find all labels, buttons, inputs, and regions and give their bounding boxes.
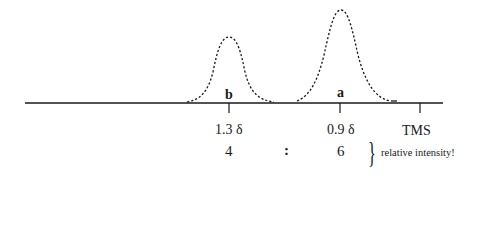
ratio-separator: : (284, 143, 289, 158)
integration-a: 6 (337, 144, 345, 159)
shift-label-a: 0.9 δ (327, 123, 355, 137)
relative-intensity-note: relative intensity! (381, 148, 455, 159)
peak-label-b: b (225, 88, 233, 102)
integration-b: 4 (225, 144, 233, 159)
shift-label-b: 1.3 δ (215, 123, 243, 137)
tms-label: TMS (402, 124, 431, 138)
bracket-brace: } (368, 137, 376, 167)
peak-label-a: a (337, 86, 344, 100)
